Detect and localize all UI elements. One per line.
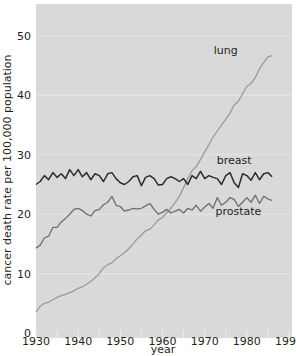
x-tick-label: 1980	[233, 335, 261, 348]
y-tick-label: 20	[17, 208, 31, 221]
x-tick-label: 1990	[275, 335, 296, 348]
y-axis-title: cancer death rate per 100,000 population	[1, 54, 14, 285]
y-tick-label: 10	[17, 268, 31, 281]
y-tick-label: 0	[24, 327, 31, 340]
x-tick-label: 1950	[106, 335, 134, 348]
x-tick-label: 1970	[191, 335, 219, 348]
breast-label: breast	[217, 154, 253, 167]
plot-background	[36, 4, 292, 338]
y-tick-label: 30	[17, 149, 31, 162]
y-axis-ticks: 01020304050	[17, 30, 31, 340]
x-tick-label: 1940	[64, 335, 92, 348]
y-tick-label: 50	[17, 30, 31, 43]
x-axis-title: year	[151, 343, 176, 356]
prostate-label: prostate	[215, 205, 261, 218]
y-tick-label: 40	[17, 89, 31, 102]
lung-label: lung	[214, 44, 238, 57]
line-chart: 1930194019501960197019801990 01020304050…	[0, 0, 296, 356]
